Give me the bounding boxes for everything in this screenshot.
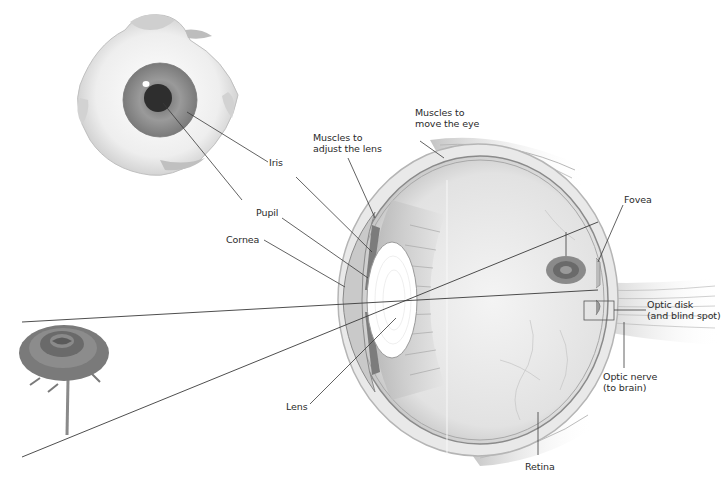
label-pupil: Pupil (256, 207, 278, 218)
label-optic-nerve-line1: Optic nerve (603, 371, 657, 382)
pupil-shape (144, 84, 172, 112)
label-muscles-adjust-lens-line1: Muscles to (313, 132, 382, 143)
label-optic-disk-line2: (and blind spot) (647, 310, 721, 321)
label-lens: Lens (286, 401, 308, 412)
label-muscles-move-eye-line2: move the eye (415, 118, 479, 129)
diagram-artwork (0, 0, 721, 483)
eye-anatomy-diagram: Iris Pupil Cornea Lens Muscles to adjust… (0, 0, 721, 483)
label-retina: Retina (525, 461, 555, 472)
label-muscles-adjust-lens: Muscles to adjust the lens (313, 132, 382, 154)
rose-object (19, 325, 109, 435)
label-muscles-move-eye-line1: Muscles to (415, 107, 479, 118)
front-eye (77, 14, 238, 175)
label-iris: Iris (269, 157, 283, 168)
label-fovea: Fovea (624, 194, 652, 205)
label-optic-nerve-line2: (to brain) (603, 382, 657, 393)
label-optic-nerve: Optic nerve (to brain) (603, 371, 657, 393)
label-muscles-adjust-lens-line2: adjust the lens (313, 143, 382, 154)
label-cornea: Cornea (226, 234, 259, 245)
label-optic-disk: Optic disk (and blind spot) (647, 299, 721, 321)
label-optic-disk-line1: Optic disk (647, 299, 721, 310)
label-muscles-move-eye: Muscles to move the eye (415, 107, 479, 129)
